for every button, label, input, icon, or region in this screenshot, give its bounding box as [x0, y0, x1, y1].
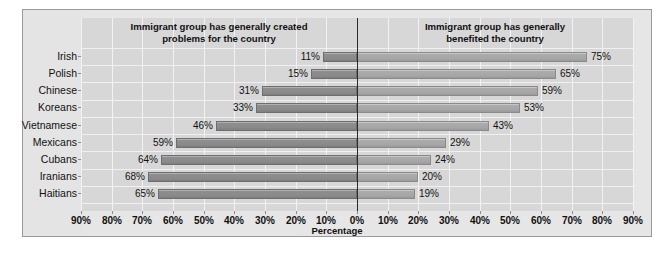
x-axis-tick: [418, 211, 419, 214]
bar-value-label-negative: 68%: [125, 172, 145, 182]
bar-value-label-negative: 64%: [138, 155, 158, 165]
bar-value-label-positive: 24%: [435, 155, 455, 165]
bar-value-label-negative: 15%: [288, 69, 308, 79]
bar-value-label-negative: 11%: [301, 52, 320, 62]
bar-negative: [158, 189, 357, 199]
gridline-vertical: [265, 18, 266, 211]
bar-positive: [357, 172, 418, 182]
bar-value-label-negative: 33%: [233, 103, 253, 113]
bar-positive: [357, 69, 556, 79]
gridline-vertical: [296, 18, 297, 211]
column-title-right: Immigrant group has generallybenefited t…: [357, 21, 633, 44]
column-title-left-line1: Immigrant group has generally created: [130, 21, 307, 32]
x-axis-tick: [541, 211, 542, 214]
bar-negative: [216, 121, 357, 131]
bar-positive: [357, 52, 587, 62]
x-axis-tick: [357, 211, 358, 214]
bar-negative: [311, 69, 357, 79]
bar-negative: [323, 52, 357, 62]
x-axis-tick: [510, 211, 511, 214]
bar-value-label-negative: 46%: [193, 121, 213, 131]
x-axis-tick: [449, 211, 450, 214]
column-title-right-line1: Immigrant group has generally: [425, 21, 565, 32]
x-axis-tick: [388, 211, 389, 214]
x-axis-tick: [173, 211, 174, 214]
bar-negative: [262, 86, 357, 96]
bar-positive: [357, 155, 431, 165]
gridline-vertical: [142, 18, 143, 211]
gridline-vertical: [480, 18, 481, 211]
bar-positive: [357, 103, 520, 113]
x-axis-tick: [81, 211, 82, 214]
x-axis-tick: [480, 211, 481, 214]
gridline-vertical: [81, 18, 82, 211]
x-axis-tick: [234, 211, 235, 214]
x-axis-tick: [326, 211, 327, 214]
bar-value-label-positive: 19%: [419, 189, 439, 199]
gridline-vertical: [326, 18, 327, 211]
bar-negative: [161, 155, 357, 165]
bar-value-label-positive: 59%: [542, 86, 562, 96]
category-label: Mexicans: [7, 137, 77, 148]
bar-value-label-negative: 65%: [135, 189, 155, 199]
x-axis-tick: [633, 211, 634, 214]
gridline-vertical: [234, 18, 235, 211]
x-axis-tick: [572, 211, 573, 214]
gridline-vertical: [112, 18, 113, 211]
category-label: Irish: [7, 51, 77, 62]
bar-value-label-positive: 43%: [493, 121, 513, 131]
category-label: Cubans: [7, 154, 77, 165]
gridline-vertical: [449, 18, 450, 211]
x-axis-tick: [296, 211, 297, 214]
bar-value-label-positive: 20%: [422, 172, 442, 182]
bar-negative: [176, 138, 357, 148]
bar-value-label-positive: 29%: [450, 138, 470, 148]
bar-positive: [357, 189, 415, 199]
gridline-vertical: [418, 18, 419, 211]
plot-area: Immigrant group has generally createdpro…: [81, 18, 633, 211]
gridline-vertical: [541, 18, 542, 211]
plot-inner: Immigrant group has generally createdpro…: [81, 18, 633, 211]
category-label: Iranians: [7, 171, 77, 182]
column-title-right-line2: benefited the country: [446, 33, 544, 44]
bar-value-label-negative: 59%: [153, 138, 173, 148]
x-axis-tick: [142, 211, 143, 214]
chart-panel: IrishPolishChineseKoreansVietnameseMexic…: [22, 9, 652, 237]
gridline-vertical: [173, 18, 174, 211]
x-axis-title: Percentage: [23, 225, 651, 236]
category-label: Haitians: [7, 188, 77, 199]
bar-positive: [357, 121, 489, 131]
bar-value-label-positive: 65%: [560, 69, 580, 79]
category-axis: IrishPolishChineseKoreansVietnameseMexic…: [23, 10, 81, 236]
category-label: Polish: [7, 68, 77, 79]
bar-positive: [357, 86, 538, 96]
category-label: Koreans: [7, 102, 77, 113]
bar-value-label-negative: 31%: [239, 86, 259, 96]
gridline-vertical: [572, 18, 573, 211]
gridline-vertical: [633, 18, 634, 211]
gridline-vertical: [602, 18, 603, 211]
zero-line: [357, 18, 358, 211]
bar-value-label-positive: 75%: [591, 52, 611, 62]
bar-negative: [148, 172, 357, 182]
x-axis-tick: [204, 211, 205, 214]
x-axis-tick: [265, 211, 266, 214]
category-label: Chinese: [7, 85, 77, 96]
x-axis-tick: [602, 211, 603, 214]
bar-positive: [357, 138, 446, 148]
category-label: Vietnamese: [7, 120, 77, 131]
column-title-left-line2: problems for the country: [162, 33, 276, 44]
column-title-left: Immigrant group has generally createdpro…: [81, 21, 357, 44]
bar-negative: [256, 103, 357, 113]
gridline-vertical: [388, 18, 389, 211]
gridline-vertical: [204, 18, 205, 211]
bar-value-label-positive: 53%: [524, 103, 544, 113]
x-axis-tick: [112, 211, 113, 214]
gridline-vertical: [510, 18, 511, 211]
